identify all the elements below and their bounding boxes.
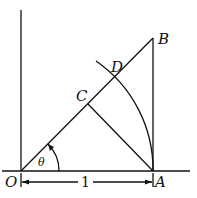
diagram-canvas: O A B C D θ 1 [0, 0, 197, 198]
label-D: D [110, 58, 123, 76]
label-B: B [157, 30, 169, 48]
dimension-arrow-right-icon [145, 180, 152, 185]
line-CA [88, 104, 153, 171]
label-O: O [5, 173, 17, 191]
label-length: 1 [81, 174, 90, 190]
label-A: A [153, 173, 166, 191]
arc-unit-circle [96, 61, 153, 171]
geometry-figure: O A B C D θ 1 [0, 0, 197, 198]
label-C: C [76, 87, 88, 105]
label-theta: θ [38, 156, 45, 169]
dimension-arrow-left-icon [22, 180, 29, 185]
